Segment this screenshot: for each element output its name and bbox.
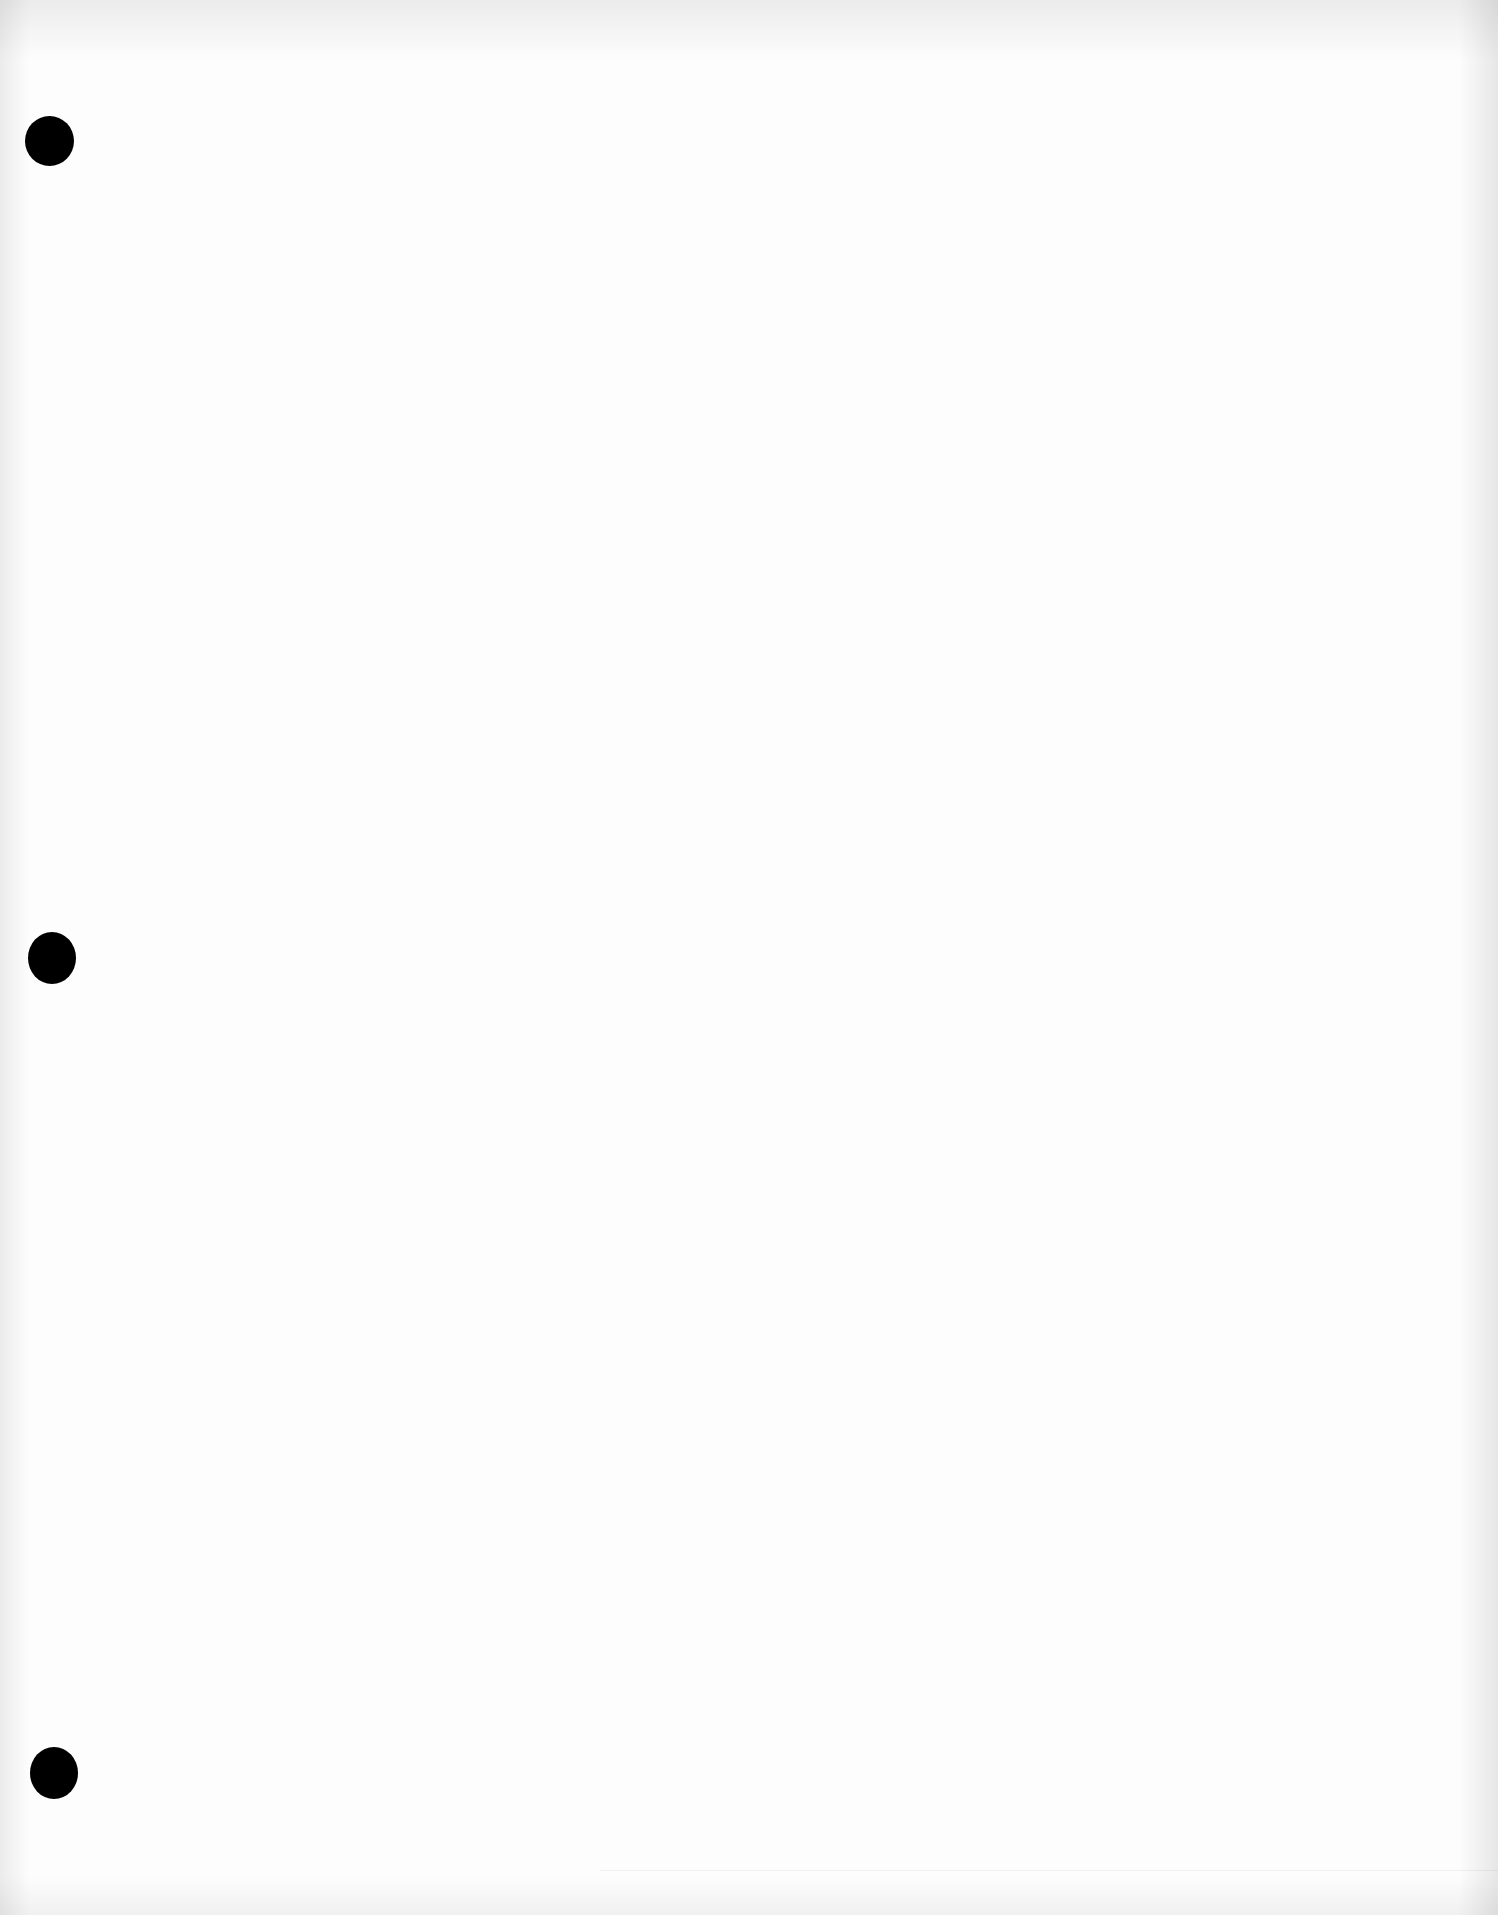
punch-hole-top: [25, 116, 74, 166]
punch-hole-middle: [28, 932, 76, 984]
scan-edge-line: [600, 1870, 1498, 1871]
blank-scanned-page: [0, 0, 1498, 1915]
punch-hole-bottom: [30, 1747, 78, 1799]
